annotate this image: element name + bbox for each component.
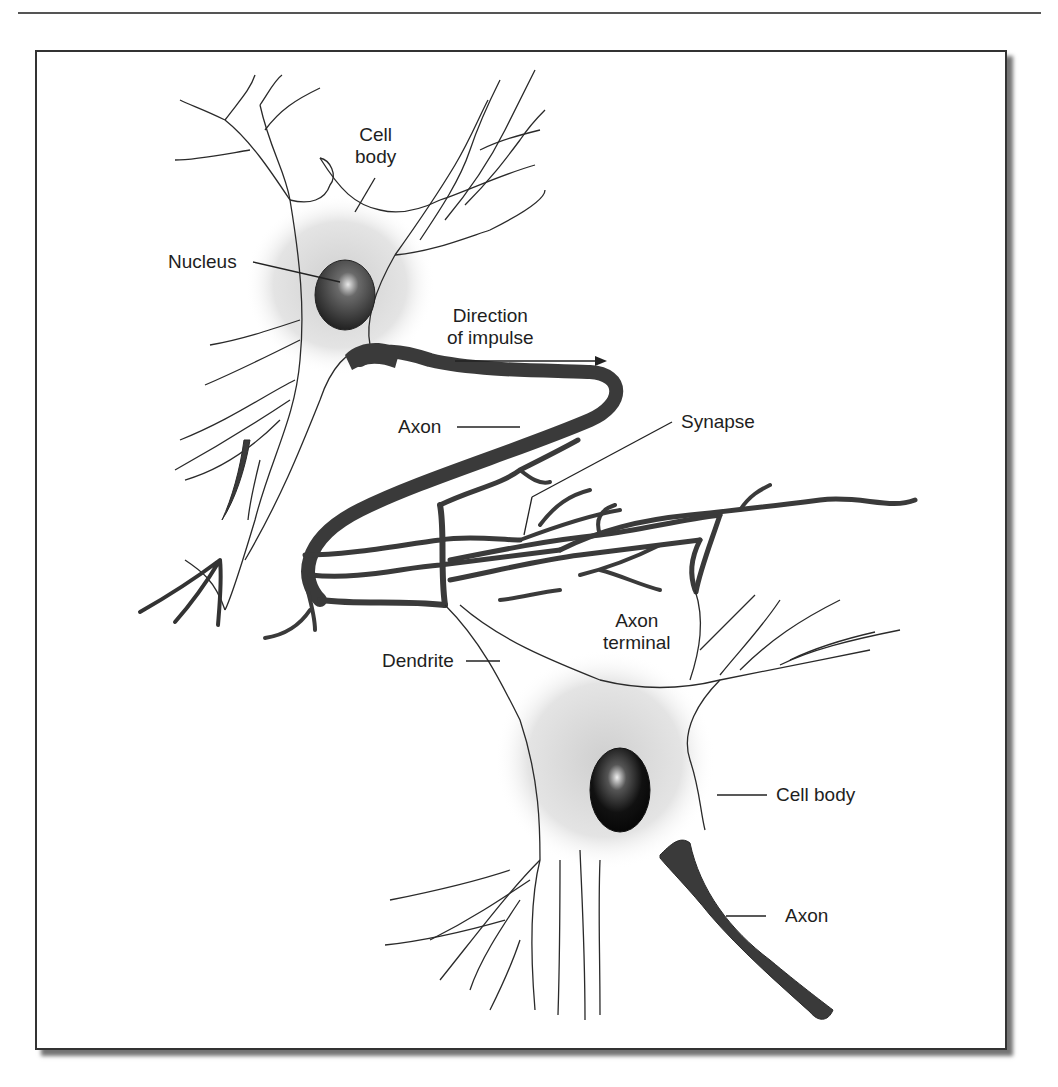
- axon-terminals: [265, 440, 915, 638]
- label-nucleus: Nucleus: [168, 251, 237, 273]
- nucleus-upper: [315, 260, 375, 330]
- dendrite-dark-fragment: [222, 440, 250, 520]
- label-axon-terminal: Axon terminal: [603, 610, 671, 654]
- label-cell-body-upper: Cell body: [355, 124, 396, 168]
- axon-lower: [660, 840, 833, 1019]
- label-direction-of-impulse: Direction of impulse: [447, 305, 534, 349]
- label-axon-lower: Axon: [785, 905, 828, 927]
- label-synapse: Synapse: [681, 411, 755, 433]
- dendrite-fork-lower-left: [140, 560, 221, 625]
- label-dendrite: Dendrite: [382, 650, 454, 672]
- nucleus-lower: [590, 748, 650, 832]
- neuron-diagram: [0, 0, 1058, 1087]
- label-axon-upper: Axon: [398, 416, 441, 438]
- label-cell-body-lower: Cell body: [776, 784, 855, 806]
